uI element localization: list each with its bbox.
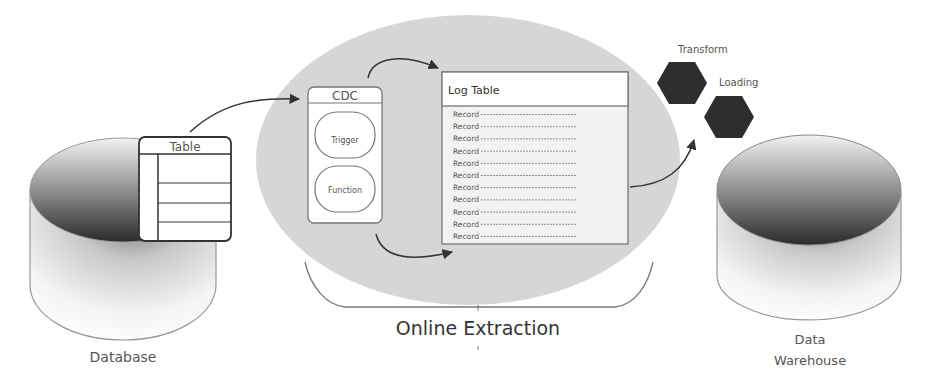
transform-label: Transform: [677, 44, 728, 55]
data-warehouse: [717, 135, 901, 320]
transform-hexagon: [657, 62, 707, 104]
log-record-label: Record: [453, 122, 479, 131]
log-table-label: Log Table: [448, 84, 500, 97]
log-record-label: Record: [453, 147, 479, 156]
data-warehouse-label-line1: Data: [794, 332, 825, 347]
log-record-label: Record: [453, 159, 479, 168]
trigger-node: [315, 112, 375, 158]
log-record-label: Record: [453, 110, 479, 119]
log-record-label: Record: [453, 171, 479, 180]
source-table-label: Table: [168, 140, 200, 154]
log-record-label: Record: [453, 220, 479, 229]
cdc-box: [308, 87, 382, 223]
online-extraction-label: Online Extraction: [396, 317, 560, 339]
log-record-label: Record: [453, 183, 479, 192]
cdc-label: CDC: [332, 89, 358, 103]
function-label: Function: [328, 186, 362, 195]
log-record-label: Record: [453, 232, 479, 241]
etl-diagram: Database Table CDC Trigger Function Log …: [0, 0, 926, 385]
log-record-label: Record: [453, 195, 479, 204]
data-warehouse-label-line2: Warehouse: [774, 353, 846, 368]
trigger-label: Trigger: [330, 136, 359, 145]
loading-label: Loading: [719, 77, 758, 88]
loading-hexagon: [704, 96, 754, 138]
source-database-label: Database: [90, 349, 157, 365]
log-record-label: Record: [453, 134, 479, 143]
log-record-label: Record: [453, 208, 479, 217]
